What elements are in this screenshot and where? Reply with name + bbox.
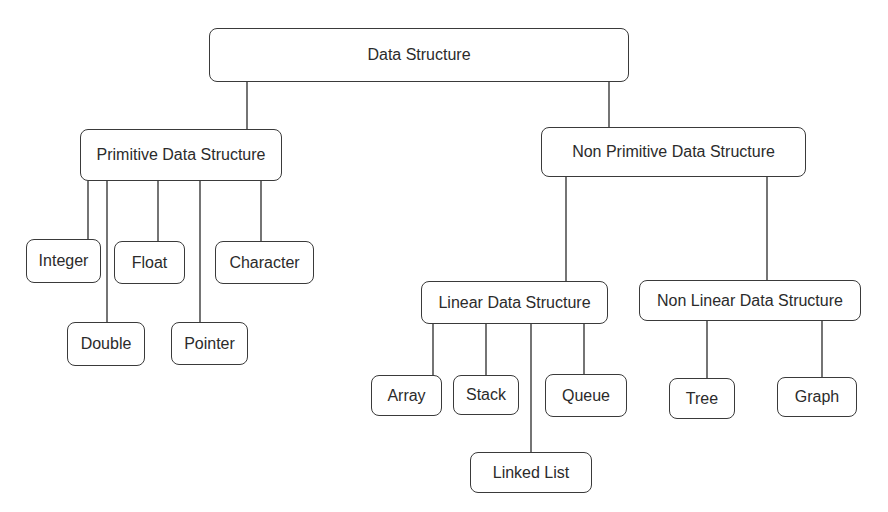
node-label: Double	[81, 335, 132, 353]
node-primitive-data-structure: Primitive Data Structure	[80, 129, 282, 181]
node-label: Float	[132, 254, 168, 272]
node-label: Linear Data Structure	[438, 294, 590, 312]
node-label: Queue	[562, 387, 610, 405]
node-pointer: Pointer	[171, 322, 248, 365]
node-label: Primitive Data Structure	[97, 146, 266, 164]
node-label: Non Linear Data Structure	[657, 292, 843, 310]
node-label: Data Structure	[367, 46, 470, 64]
node-tree: Tree	[669, 378, 735, 419]
node-label: Array	[387, 387, 425, 405]
node-data-structure: Data Structure	[209, 28, 629, 82]
node-label: Tree	[686, 390, 718, 408]
node-non-primitive-data-structure: Non Primitive Data Structure	[541, 127, 806, 177]
node-float: Float	[114, 241, 185, 284]
node-label: Linked List	[493, 464, 570, 482]
node-array: Array	[371, 375, 442, 416]
node-non-linear-data-structure: Non Linear Data Structure	[639, 280, 861, 321]
node-linked-list: Linked List	[470, 452, 592, 493]
node-queue: Queue	[545, 374, 627, 417]
node-label: Character	[229, 254, 299, 272]
node-stack: Stack	[453, 375, 519, 415]
node-integer: Integer	[26, 239, 101, 283]
node-label: Non Primitive Data Structure	[572, 143, 775, 161]
data-structure-diagram: Data Structure Primitive Data Structure …	[0, 0, 888, 512]
node-label: Pointer	[184, 335, 235, 353]
node-label: Graph	[795, 388, 839, 406]
node-label: Integer	[39, 252, 89, 270]
node-linear-data-structure: Linear Data Structure	[421, 281, 608, 324]
node-character: Character	[215, 241, 314, 284]
node-graph: Graph	[777, 377, 857, 417]
node-double: Double	[67, 322, 145, 366]
node-label: Stack	[466, 386, 506, 404]
